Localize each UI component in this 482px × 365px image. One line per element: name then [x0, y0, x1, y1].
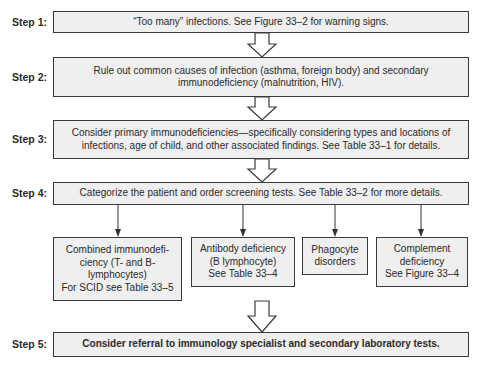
block-arrow-down-icon — [248, 33, 276, 332]
connector-arrows — [0, 0, 482, 365]
thin-arrow-down-icon — [118, 205, 421, 230]
